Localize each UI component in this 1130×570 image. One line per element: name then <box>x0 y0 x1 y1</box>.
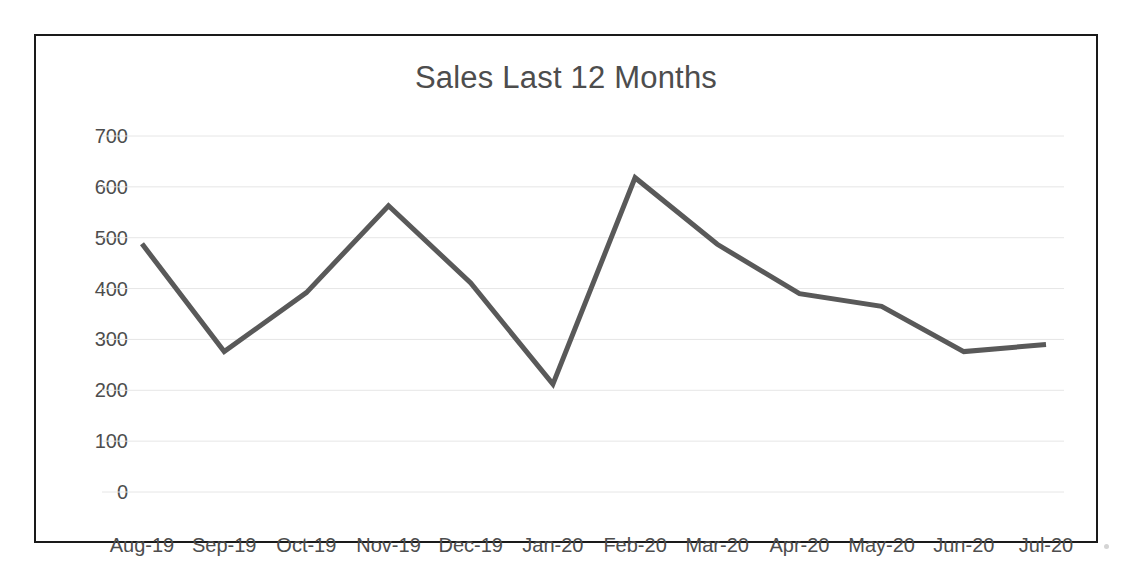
x-axis-tick-label: Jan-20 <box>522 534 583 557</box>
x-axis-tick-label: Apr-20 <box>769 534 829 557</box>
series-line-sales <box>142 178 1046 385</box>
x-axis-tick-label: Aug-19 <box>110 534 175 557</box>
x-axis-tick-label: Dec-19 <box>438 534 502 557</box>
x-axis-labels: Aug-19Sep-19Oct-19Nov-19Dec-19Jan-20Feb-… <box>102 534 1064 568</box>
x-axis-tick-label: Mar-20 <box>686 534 749 557</box>
chart-frame: Sales Last 12 Months 7006005004003002001… <box>34 34 1098 543</box>
x-axis-tick-label: Sep-19 <box>192 534 257 557</box>
chart-title: Sales Last 12 Months <box>36 60 1096 96</box>
plot-area <box>102 102 1064 526</box>
x-axis-tick-label: Oct-19 <box>276 534 336 557</box>
page-artifact-dot <box>1104 544 1109 549</box>
x-axis-tick-label: Jul-20 <box>1019 534 1073 557</box>
x-axis-tick-label: Nov-19 <box>356 534 420 557</box>
x-axis-tick-label: Jun-20 <box>933 534 994 557</box>
x-axis-tick-label: May-20 <box>848 534 915 557</box>
x-axis-tick-label: Feb-20 <box>603 534 666 557</box>
line-chart-svg <box>102 102 1064 526</box>
